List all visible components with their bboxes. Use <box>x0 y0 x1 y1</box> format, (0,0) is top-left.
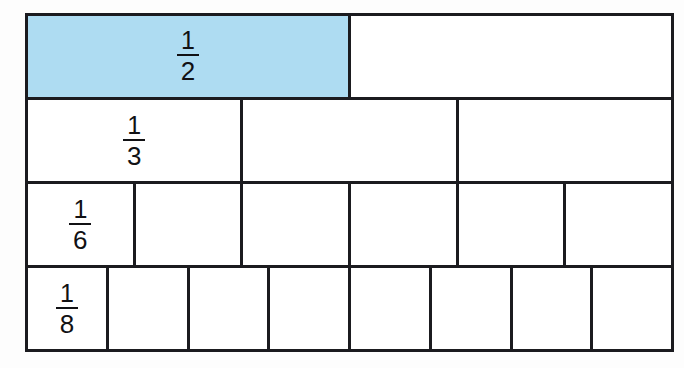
fraction-numerator: 1 <box>70 197 90 223</box>
fraction-cell-8-8[interactable] <box>593 268 671 349</box>
fraction-cell-3-2[interactable] <box>243 100 458 181</box>
fraction-cell-8-1[interactable]: 18 <box>28 268 109 349</box>
fraction-cell-8-4[interactable] <box>270 268 351 349</box>
fraction-denominator: 3 <box>124 141 144 169</box>
fraction-label-3: 13 <box>123 113 145 169</box>
fraction-cell-8-3[interactable] <box>190 268 271 349</box>
fraction-cell-3-1[interactable]: 13 <box>28 100 243 181</box>
fraction-cell-6-4[interactable] <box>351 184 459 265</box>
fraction-label-8: 18 <box>56 281 78 337</box>
fraction-row-3: 13 <box>28 100 671 184</box>
fraction-row-8: 18 <box>28 268 671 349</box>
fraction-row-2: 12 <box>28 16 671 100</box>
fraction-label-2: 12 <box>177 28 199 84</box>
fraction-cell-2-1[interactable]: 12 <box>28 16 351 97</box>
fraction-label-6: 16 <box>69 197 91 253</box>
fraction-cell-6-5[interactable] <box>459 184 567 265</box>
fraction-cell-8-7[interactable] <box>513 268 594 349</box>
fraction-row-6: 16 <box>28 184 671 268</box>
fraction-numerator: 1 <box>124 113 144 139</box>
fraction-denominator: 6 <box>70 225 90 253</box>
fraction-cell-6-6[interactable] <box>566 184 671 265</box>
fraction-numerator: 1 <box>178 28 198 54</box>
fraction-numerator: 1 <box>57 281 77 307</box>
fraction-wall: 12131618 <box>25 13 674 352</box>
fraction-denominator: 2 <box>178 56 198 84</box>
fraction-denominator: 8 <box>57 309 77 337</box>
fraction-cell-8-6[interactable] <box>432 268 513 349</box>
fraction-cell-6-3[interactable] <box>243 184 351 265</box>
fraction-cell-3-3[interactable] <box>459 100 671 181</box>
fraction-cell-6-2[interactable] <box>136 184 244 265</box>
fraction-cell-8-2[interactable] <box>109 268 190 349</box>
fraction-cell-8-5[interactable] <box>351 268 432 349</box>
fraction-cell-6-1[interactable]: 16 <box>28 184 136 265</box>
fraction-cell-2-2[interactable] <box>351 16 671 97</box>
